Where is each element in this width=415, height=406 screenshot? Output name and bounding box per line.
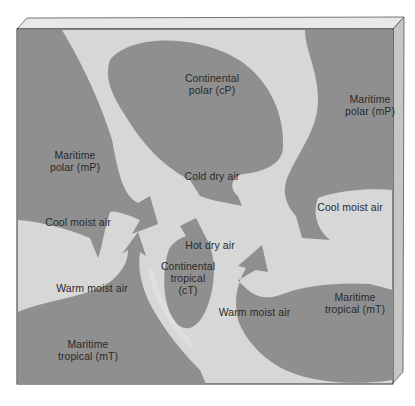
label-warm-moist-air-west: Warm moist air: [52, 282, 132, 294]
label-cold-dry-air: Cold dry air: [172, 170, 252, 182]
frame-top-bevel: [17, 17, 404, 29]
label-warm-moist-air-east: Warm moist air: [212, 306, 297, 318]
label-cool-moist-air-west: Cool moist air: [38, 216, 118, 228]
label-continental-polar: Continental polar (cP): [172, 72, 252, 96]
label-continental-tropical: Continental tropical (cT): [153, 260, 223, 296]
label-maritime-polar-west: Maritime polar (mP): [40, 149, 110, 173]
label-cool-moist-air-east: Cool moist air: [310, 201, 390, 213]
label-maritime-tropical-west: Maritime tropical (mT): [48, 338, 128, 362]
frame-right-bevel: [392, 17, 404, 384]
label-maritime-tropical-east: Maritime tropical (mT): [315, 291, 395, 315]
label-hot-dry-air: Hot dry air: [170, 239, 250, 251]
label-maritime-polar-east: Maritime polar (mP): [335, 93, 405, 117]
